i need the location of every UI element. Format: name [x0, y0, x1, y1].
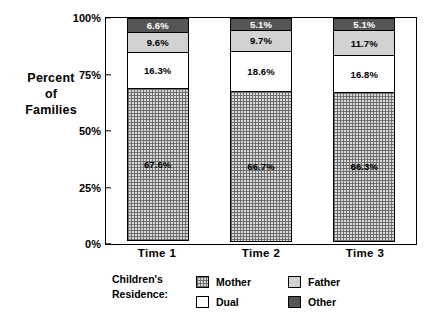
segment-value-label: 16.8%: [351, 69, 378, 80]
y-axis-tick-25: 25%: [79, 182, 106, 194]
x-axis-tick-label: Time 2: [230, 247, 292, 265]
segment-dual[interactable]: 18.6%: [230, 51, 292, 93]
segment-mother[interactable]: 67.6%: [127, 88, 189, 241]
y-axis-title-line-2: of: [8, 86, 94, 102]
segment-value-label: 18.6%: [247, 66, 274, 77]
segment-mother[interactable]: 66.3%: [333, 92, 395, 242]
y-axis-tick-75: 75%: [79, 69, 106, 81]
stacked-bar-chart: Percent of Families 0%25%50%75%100% 6.6%…: [0, 0, 436, 320]
legend-label: Mother: [216, 276, 251, 288]
segment-value-label: 5.1%: [353, 19, 375, 30]
segment-value-label: 66.7%: [247, 161, 274, 172]
bar-stack: 6.6%9.6%16.3%67.6%: [127, 18, 189, 244]
segment-other[interactable]: 6.6%: [127, 18, 189, 33]
y-axis-tick-label: 25%: [79, 182, 101, 194]
segment-value-label: 9.6%: [147, 37, 169, 48]
segment-mother[interactable]: 66.7%: [230, 91, 292, 242]
legend-items: MotherFatherDualOther: [196, 272, 380, 312]
y-axis-tick-label: 0%: [85, 238, 101, 250]
segment-father[interactable]: 11.7%: [333, 30, 395, 56]
segment-value-label: 5.1%: [250, 19, 272, 30]
y-axis-tick-100: 100%: [73, 12, 106, 24]
bar-time-3[interactable]: 5.1%11.7%16.8%66.3%: [333, 18, 395, 244]
legend-item-dual[interactable]: Dual: [196, 296, 288, 308]
y-axis-tick-50: 50%: [79, 125, 106, 137]
bar-stack: 5.1%11.7%16.8%66.3%: [333, 18, 395, 244]
y-axis-title-line-3: Families: [8, 102, 94, 118]
x-axis-ticks: Time 1Time 2Time 3: [105, 247, 417, 265]
segment-dual[interactable]: 16.3%: [127, 52, 189, 89]
y-axis-tick-label: 50%: [79, 125, 101, 137]
legend-item-mother[interactable]: Mother: [196, 276, 288, 288]
y-axis-tick-0: 0%: [85, 238, 106, 250]
x-axis-tick-label: Time 3: [334, 247, 396, 265]
segment-dual[interactable]: 16.8%: [333, 55, 395, 93]
segment-value-label: 66.3%: [351, 161, 378, 172]
segment-value-label: 11.7%: [351, 38, 378, 49]
legend-swatch-mother: [196, 276, 209, 288]
segment-value-label: 67.6%: [144, 159, 171, 170]
legend-label: Other: [308, 296, 336, 308]
legend-swatch-father: [288, 276, 301, 288]
legend-swatch-other: [288, 296, 301, 308]
segment-value-label: 16.3%: [144, 65, 171, 76]
bar-time-2[interactable]: 5.1%9.7%18.6%66.7%: [230, 18, 292, 244]
y-axis-tick-label: 75%: [79, 69, 101, 81]
segment-value-label: 6.6%: [147, 20, 169, 31]
legend-item-father[interactable]: Father: [288, 276, 380, 288]
bar-stack: 5.1%9.7%18.6%66.7%: [230, 18, 292, 244]
bar-group: 6.6%9.6%16.3%67.6%5.1%9.7%18.6%66.7%5.1%…: [106, 18, 416, 244]
bar-time-1[interactable]: 6.6%9.6%16.3%67.6%: [127, 18, 189, 244]
legend-item-other[interactable]: Other: [288, 296, 380, 308]
x-axis-tick-label: Time 1: [126, 247, 188, 265]
legend: Children's Residence: MotherFatherDualOt…: [112, 272, 402, 312]
segment-father[interactable]: 9.7%: [230, 30, 292, 52]
legend-swatch-dual: [196, 296, 209, 308]
segment-father[interactable]: 9.6%: [127, 32, 189, 54]
plot-area: 0%25%50%75%100% 6.6%9.6%16.3%67.6%5.1%9.…: [105, 17, 417, 245]
legend-title: Children's Residence:: [112, 272, 182, 302]
legend-label: Father: [308, 276, 340, 288]
y-axis-tick-label: 100%: [73, 12, 101, 24]
segment-value-label: 9.7%: [250, 35, 272, 46]
legend-label: Dual: [216, 296, 239, 308]
